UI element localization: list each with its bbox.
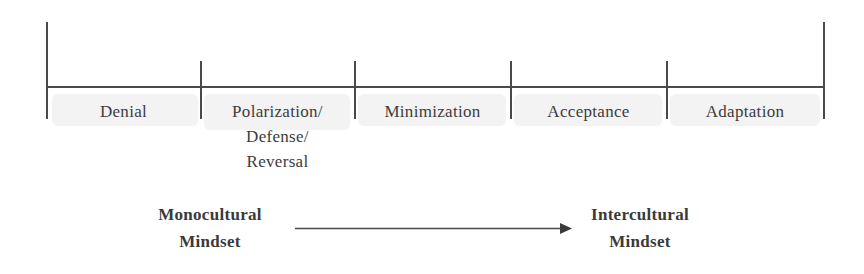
progression-arrow-icon bbox=[0, 0, 864, 274]
